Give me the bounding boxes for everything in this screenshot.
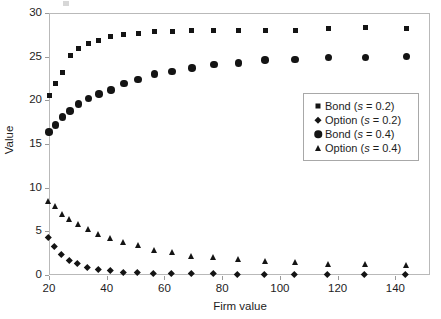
data-point [403, 262, 409, 268]
diamond-marker-icon [311, 113, 325, 127]
data-point [95, 231, 101, 237]
data-point [169, 249, 175, 255]
data-point [85, 226, 91, 232]
data-point [45, 198, 51, 204]
data-point [151, 247, 157, 253]
data-point [362, 261, 368, 267]
x-axis-title: Firm value [150, 300, 330, 312]
data-point [292, 259, 298, 265]
data-point [235, 256, 241, 262]
data-point [135, 242, 141, 248]
legend-label: Bond (s = 0.4) [325, 127, 394, 141]
legend-label: Bond (s = 0.2) [325, 99, 394, 113]
legend-item-1: Bond (s = 0.2) [311, 99, 412, 113]
chart-figure: 05101520253020406080100120140 Value Firm… [0, 0, 441, 319]
y-axis-title: Value [3, 110, 15, 170]
legend-item-3: Bond (s = 0.4) [311, 127, 412, 141]
square-marker-icon [311, 99, 325, 113]
data-point [75, 221, 81, 227]
legend-item-4: Option (s = 0.4) [311, 141, 412, 155]
data-point [59, 211, 65, 217]
data-point [262, 258, 268, 264]
triangle-marker-icon [311, 141, 325, 155]
data-point [188, 253, 194, 259]
chart-legend: Bond (s = 0.2)Option (s = 0.2)Bond (s = … [303, 93, 419, 161]
legend-label: Option (s = 0.4) [325, 141, 401, 155]
data-point [52, 203, 58, 209]
legend-item-2: Option (s = 0.2) [311, 113, 412, 127]
data-point [107, 235, 113, 241]
data-point [66, 216, 72, 222]
legend-label: Option (s = 0.2) [325, 113, 401, 127]
data-point [120, 239, 126, 245]
data-point [210, 254, 216, 260]
circle-marker-icon [311, 127, 325, 141]
data-point [325, 261, 331, 267]
